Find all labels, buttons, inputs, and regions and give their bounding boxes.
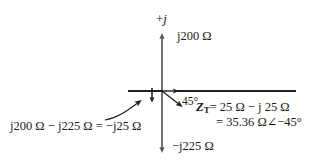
positive-reactance-label: j200 Ω bbox=[177, 30, 212, 43]
impedance-symbol: Z bbox=[196, 100, 204, 114]
total-impedance-phasor bbox=[162, 91, 180, 105]
negative-reactance-label: −j225 Ω bbox=[172, 140, 214, 153]
total-impedance-equation-line1: ZT= 25 Ω − j 25 Ω bbox=[196, 101, 290, 116]
imaginary-axis-label: +j bbox=[156, 12, 167, 26]
impedance-rectangular-value: = 25 Ω − j 25 Ω bbox=[210, 100, 290, 114]
reactance-sum-equation: j200 Ω − j225 Ω = −j25 Ω bbox=[10, 120, 141, 133]
callout-curved-arrow bbox=[105, 102, 139, 120]
imaginary-axis-label-text: j bbox=[163, 11, 167, 26]
total-impedance-equation-line2: = 35.36 Ω∠−45° bbox=[216, 116, 302, 129]
phasor-diagram-figure: +j j200 Ω −j225 Ω 45° j200 Ω − j225 Ω = … bbox=[0, 0, 314, 167]
